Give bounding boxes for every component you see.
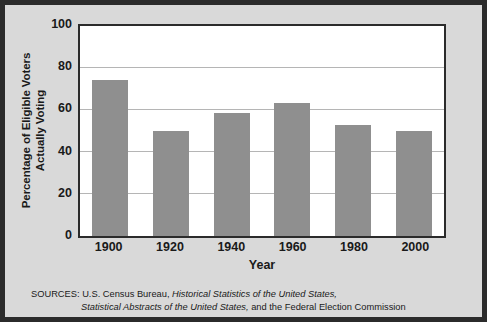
sources-line1-italic: Historical Statistics of the United Stat… <box>172 289 337 299</box>
bar-1960 <box>274 103 310 236</box>
y-tick-80: 80 <box>42 60 72 73</box>
chart-figure: Percentage of Eligible Voters Actually V… <box>0 0 487 322</box>
x-tick-1900: 1900 <box>74 241 144 254</box>
x-tick-2000: 2000 <box>380 241 450 254</box>
y-tick-100: 100 <box>42 18 72 31</box>
x-axis-tick-labels: 190019201940196019802000 <box>78 241 446 258</box>
bar-2000 <box>396 131 432 236</box>
gridline <box>80 193 444 194</box>
gridline <box>80 67 444 68</box>
y-tick-20: 20 <box>42 187 72 200</box>
sources-line1-plain: U.S. Census Bureau, <box>80 289 173 299</box>
x-tick-1980: 1980 <box>319 241 389 254</box>
sources-note: SOURCES: U.S. Census Bureau, Historical … <box>31 288 470 314</box>
gridline <box>80 151 444 152</box>
sources-line-1: SOURCES: U.S. Census Bureau, Historical … <box>31 288 470 301</box>
sources-line2-plain: and the Federal Election Commission <box>249 302 406 312</box>
sources-line-2: Statistical Abstracts of the United Stat… <box>31 301 470 314</box>
plot-area <box>78 24 446 238</box>
y-tick-40: 40 <box>42 144 72 157</box>
x-axis-title: Year <box>78 258 446 272</box>
bar-1980 <box>335 125 371 236</box>
y-tick-60: 60 <box>42 102 72 115</box>
sources-label: SOURCES: <box>31 289 80 299</box>
sources-line2-italic: Statistical Abstracts of the United Stat… <box>81 302 249 312</box>
x-tick-1940: 1940 <box>196 241 266 254</box>
bar-1940 <box>214 113 250 236</box>
y-tick-0: 0 <box>42 229 72 242</box>
bar-1900 <box>92 80 128 236</box>
bar-1920 <box>153 131 189 236</box>
x-tick-1960: 1960 <box>258 241 328 254</box>
x-tick-1920: 1920 <box>135 241 205 254</box>
plot-inner <box>80 26 444 236</box>
y-axis-tick-labels: 020406080100 <box>38 24 72 235</box>
y-axis-title-line1: Percentage of Eligible Voters <box>20 53 34 208</box>
gridline <box>80 109 444 110</box>
